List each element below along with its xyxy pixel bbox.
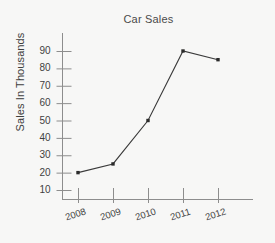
y-axis-tick-label: 40: [25, 133, 51, 143]
y-axis-tick-label: 90: [25, 46, 51, 56]
axis-lines: [62, 33, 253, 200]
data-point-marker: [181, 49, 184, 52]
data-point-marker: [216, 58, 219, 61]
data-point-marker: [76, 171, 79, 174]
x-axis-ticks: [79, 188, 219, 203]
y-axis-tick-label: 60: [25, 98, 51, 108]
data-line-series: [78, 51, 218, 173]
data-point-markers: [76, 49, 219, 174]
y-axis-tick-label: 10: [25, 185, 51, 195]
y-axis-tick-label: 80: [25, 63, 51, 73]
y-axis-tick-label: 30: [25, 150, 51, 160]
y-axis-tick-label: 70: [25, 81, 51, 91]
data-point-marker: [111, 162, 114, 165]
data-point-marker: [146, 119, 149, 122]
chart-screenshot: Car Sales Sales In Thousands 10203040506…: [0, 0, 275, 243]
y-axis-tick-label: 20: [25, 168, 51, 178]
y-axis-tick-label: 50: [25, 116, 51, 126]
y-axis-ticks: [57, 52, 72, 191]
